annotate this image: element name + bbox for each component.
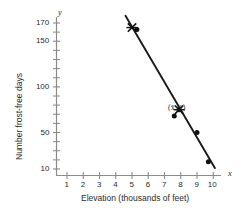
x-tick-label-8: 8	[178, 180, 182, 189]
data-point-4	[206, 159, 211, 164]
x-tick-label-10: 10	[208, 180, 217, 189]
y-tick-label-50: 50	[41, 128, 50, 137]
y-tick-label-10: 10	[41, 164, 50, 173]
y-tick-label-170: 170	[36, 18, 49, 27]
axis-lines	[57, 17, 222, 176]
x-tick-label-5: 5	[130, 180, 134, 189]
x-tick-label-9: 9	[195, 180, 199, 189]
y-axis-title: Number frost-free days	[14, 73, 24, 160]
y-tick-label-150: 150	[36, 36, 49, 45]
x-tick-label-4: 4	[113, 180, 117, 189]
x-axis-title: Elevation (thousands of feet)	[81, 193, 189, 203]
x-tick-label-2: 2	[81, 180, 85, 189]
regression-line	[126, 16, 215, 168]
y-axis-name: y	[58, 7, 62, 17]
mean-marker-0	[126, 23, 137, 31]
x-tick-label-7: 7	[162, 180, 166, 189]
x-tick-label-6: 6	[146, 180, 150, 189]
x-tick-label-3: 3	[97, 180, 101, 189]
mean-point-annotation: (x̄, ȳ)	[168, 103, 185, 112]
y-tick-label-100: 100	[36, 82, 49, 91]
x-axis-name: x	[228, 168, 232, 178]
scatter-plot-figure: 12345678910 1050100150170 Elevation (tho…	[0, 0, 246, 214]
x-tick-label-1: 1	[65, 180, 69, 189]
data-point-1	[172, 114, 177, 119]
data-point-3	[195, 130, 200, 135]
